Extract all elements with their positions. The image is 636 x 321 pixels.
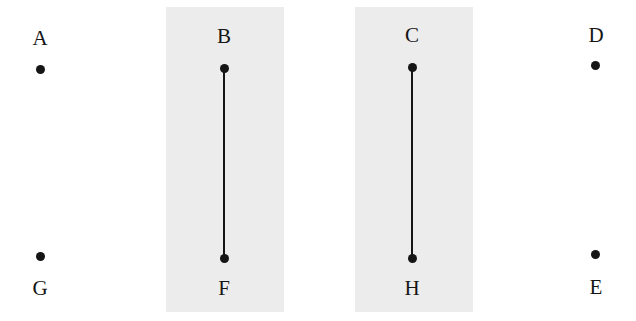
point-dot-c[interactable] [408,63,417,72]
figure-canvas: A B C D G F H E [0,0,636,321]
point-label-c: C [392,25,432,46]
point-label-e: E [576,277,616,298]
point-label-d: D [576,25,616,46]
point-label-b: B [204,26,244,47]
point-label-f: F [204,278,244,299]
point-dot-e[interactable] [591,250,600,259]
panel-left-background [166,7,284,312]
point-dot-d[interactable] [591,61,600,70]
point-dot-h[interactable] [408,254,417,263]
point-dot-b[interactable] [220,64,229,73]
point-dot-g[interactable] [36,252,45,261]
point-dot-a[interactable] [36,65,45,74]
connector-b-f [223,68,225,258]
panel-right-background [355,7,473,312]
point-label-h: H [392,278,432,299]
point-label-g: G [20,278,60,299]
point-dot-f[interactable] [220,254,229,263]
connector-c-h [411,67,413,258]
point-label-a: A [20,28,60,49]
